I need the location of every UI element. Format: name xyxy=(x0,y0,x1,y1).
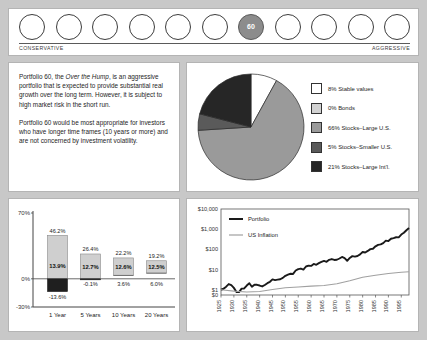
line-x-tick: 1990 xyxy=(383,300,389,312)
risk-scale-labels: CONSERVATIVE AGGRESSIVE xyxy=(19,45,410,51)
risk-scale-circle-5[interactable] xyxy=(165,14,191,40)
asset-allocation-panel: 8% Stable values0% Bonds66% Stocks–Large… xyxy=(186,62,419,192)
line-x-tick: 1925 xyxy=(216,300,222,312)
legend-swatch-icon xyxy=(311,103,322,114)
legend-item-4: 5% Stocks–Smaller U.S. xyxy=(311,142,415,153)
risk-scale-right-label: AGGRESSIVE xyxy=(372,45,410,51)
line-y-tick: $10,000 xyxy=(198,206,218,212)
risk-scale-circle-10[interactable] xyxy=(348,14,374,40)
legend-label: 66% Stocks–Large U.S. xyxy=(328,125,391,131)
legend-item-2: 0% Bonds xyxy=(311,103,415,114)
risk-scale-circle-3[interactable] xyxy=(92,14,118,40)
legend-swatch-icon xyxy=(311,142,322,153)
legend-label: 0% Bonds xyxy=(328,105,355,111)
bar-best-label: 19.2% xyxy=(149,253,165,259)
bar-best-label: 22.2% xyxy=(116,250,132,256)
legend-label: 5% Stocks–Smaller U.S. xyxy=(328,144,392,150)
bar-best-label: 46.2% xyxy=(50,228,66,234)
bar-average-label: 12.6% xyxy=(115,264,131,270)
line-x-tick: 1985 xyxy=(371,300,377,312)
risk-scale-left-label: CONSERVATIVE xyxy=(19,45,64,51)
risk-scale-line xyxy=(19,43,410,44)
legend-item-5: 21% Stocks–Large Int'l. xyxy=(311,161,415,172)
bar-category-label: 10 Years xyxy=(112,312,135,318)
line-y-tick: $10 xyxy=(209,267,218,273)
returns-bar-chart: 70%0%-30%46.2%13.9%-13.6%1 Year26.4%12.7… xyxy=(9,199,179,331)
line-x-tick: 1945 xyxy=(268,300,274,312)
bar-worst-label: 3.6% xyxy=(117,281,130,287)
growth-line-chart: $10,000$1,000$100$10$1$0PortfolioUS Infl… xyxy=(187,199,418,331)
portfolio-description-panel: Portfolio 60, the Over the Hump, is an a… xyxy=(8,62,180,192)
legend-item-3: 66% Stocks–Large U.S. xyxy=(311,122,415,133)
line-x-tick: 1975 xyxy=(345,300,351,312)
description-paragraph-1: Portfolio 60, the Over the Hump, is an a… xyxy=(19,72,169,109)
legend-item-1: 8% Stable values xyxy=(311,83,415,94)
bar-category-label: 1 Year xyxy=(49,312,66,318)
line-x-tick: 1980 xyxy=(358,300,364,312)
line-y-tick: $0 xyxy=(212,292,218,298)
line-x-tick: 1950 xyxy=(280,300,286,312)
line-y-tick: $1,000 xyxy=(201,226,218,232)
risk-scale-circles[interactable]: 60 xyxy=(19,13,410,40)
line-x-tick: 1965 xyxy=(319,300,325,312)
legend-swatch-icon xyxy=(311,83,322,94)
bar-worst-label: -13.6% xyxy=(49,294,67,300)
bar-negative-1 xyxy=(48,279,68,292)
bar-negative-2 xyxy=(81,279,101,280)
dashboard-page: 60 CONSERVATIVE AGGRESSIVE Portfolio 60,… xyxy=(0,0,427,340)
bar-average-label: 12.7% xyxy=(82,264,98,270)
bar-worst-label: -0.1% xyxy=(83,281,98,287)
risk-scale-circle-2[interactable] xyxy=(56,14,82,40)
bar-worst-label: 6.0% xyxy=(150,281,163,287)
line-x-tick: 1995 xyxy=(396,300,402,312)
bar-category-label: 20 Years xyxy=(145,312,168,318)
legend-label: 21% Stocks–Large Int'l. xyxy=(328,164,390,170)
risk-scale-panel: 60 CONSERVATIVE AGGRESSIVE xyxy=(8,8,419,56)
legend-label: 8% Stable values xyxy=(328,86,374,92)
bar-category-label: 5 Years xyxy=(80,312,100,318)
risk-scale-circle-4[interactable] xyxy=(129,14,155,40)
description-paragraph-2: Portfolio 60 would be most appropriate f… xyxy=(19,118,169,146)
line-y-tick: $100 xyxy=(206,246,218,252)
line-x-tick: 1930 xyxy=(229,300,235,312)
allocation-pie-chart xyxy=(197,72,305,182)
bar-range-1 xyxy=(48,235,68,278)
line-x-tick: 1955 xyxy=(293,300,299,312)
line-legend-label: Portfolio xyxy=(248,216,269,222)
bar-best-label: 26.4% xyxy=(83,246,99,252)
risk-scale-circle-11[interactable] xyxy=(384,14,410,40)
line-x-tick: 1960 xyxy=(306,300,312,312)
line-x-tick: 1970 xyxy=(332,300,338,312)
description-p1-lead: Portfolio 60, the xyxy=(19,73,66,80)
bar-y-tick: 70% xyxy=(18,210,31,216)
risk-scale-active-label: 60 xyxy=(247,23,255,30)
line-x-tick: 1940 xyxy=(255,300,261,312)
line-series-2 xyxy=(221,272,409,292)
growth-line-panel: $10,000$1,000$100$10$1$0PortfolioUS Infl… xyxy=(186,198,419,332)
risk-scale-circle-9[interactable] xyxy=(311,14,337,40)
bar-y-tick: 0% xyxy=(21,276,30,282)
legend-swatch-icon xyxy=(311,122,322,133)
bar-average-label: 12.5% xyxy=(148,264,164,270)
legend-swatch-icon xyxy=(311,161,322,172)
line-x-tick: 1935 xyxy=(242,300,248,312)
historical-returns-bar-panel: 70%0%-30%46.2%13.9%-13.6%1 Year26.4%12.7… xyxy=(8,198,180,332)
risk-scale-circle-1[interactable] xyxy=(19,14,45,40)
line-legend-label: US Inflation xyxy=(248,232,278,238)
allocation-legend: 8% Stable values0% Bonds66% Stocks–Large… xyxy=(311,83,415,181)
bar-y-tick: -30% xyxy=(16,304,31,310)
risk-scale-circle-6[interactable] xyxy=(202,14,228,40)
risk-scale-circle-7[interactable]: 60 xyxy=(238,14,264,40)
description-p1-italic: Over the Hump xyxy=(66,73,109,80)
bar-average-label: 13.9% xyxy=(49,263,65,269)
risk-scale-circle-8[interactable] xyxy=(275,14,301,40)
